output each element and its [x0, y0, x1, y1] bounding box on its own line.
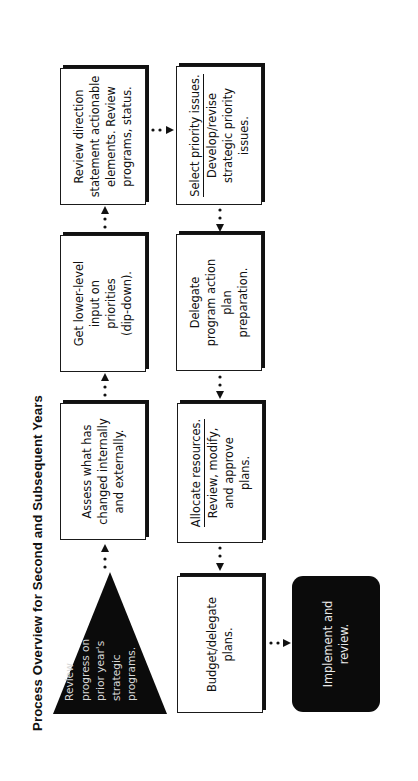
arrow-left-icon [216, 375, 224, 399]
process-diagram: Process Overview for Second and Subseque… [0, 0, 418, 781]
arrow-right-icon [101, 206, 109, 229]
arrow-down-icon [151, 126, 174, 134]
arrow-down-icon [269, 639, 291, 647]
arrow-left-icon [216, 208, 224, 232]
arrow-right-icon [101, 373, 109, 397]
arrow-right-icon [101, 544, 109, 569]
dotted-arrows [0, 0, 418, 781]
arrow-left-icon [216, 546, 224, 571]
